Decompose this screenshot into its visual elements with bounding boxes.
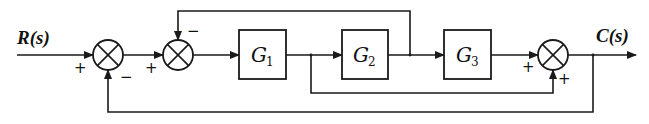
output-signal-label: C(s) [596, 25, 629, 47]
svg-text:G: G [251, 43, 267, 67]
block-g1: G 1 [239, 30, 286, 79]
branch-point-g1 [310, 54, 313, 57]
sum3-plus-sign-left: + [522, 58, 535, 76]
summing-junction-2 [163, 40, 193, 70]
block-diagram: R(s) + − + − G 1 [0, 0, 649, 124]
sum1-minus-sign: − [120, 68, 133, 86]
block-g3: G 3 [444, 30, 491, 79]
sum3-plus-sign-bottom: + [558, 70, 571, 88]
sum1-plus-sign: + [74, 59, 87, 77]
branch-point-output [592, 54, 595, 57]
svg-text:G: G [456, 43, 472, 67]
sum2-minus-sign: − [187, 22, 200, 40]
summing-junction-3 [538, 40, 568, 70]
svg-text:2: 2 [368, 55, 376, 69]
summing-junction-1 [93, 40, 123, 70]
branch-point-g2 [409, 54, 412, 57]
svg-text:1: 1 [266, 55, 274, 69]
svg-text:G: G [353, 43, 369, 67]
input-signal-label: R(s) [16, 27, 50, 49]
sum2-plus-sign: + [145, 59, 158, 77]
svg-text:3: 3 [471, 55, 479, 69]
block-g2: G 2 [342, 30, 388, 79]
